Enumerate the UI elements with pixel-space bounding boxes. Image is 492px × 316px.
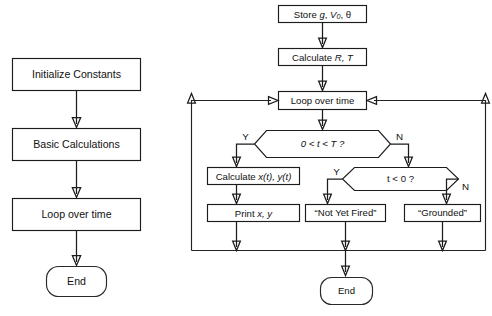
detailed-flowchart: Store g, V0, θ Calculate R, T Loop over … xyxy=(188,6,490,305)
connector-initialize-to-basic xyxy=(72,91,80,128)
connector-print-to-collector xyxy=(233,222,241,251)
node-calculate-xy-label: Calculate x(t), y(t) xyxy=(216,170,292,181)
branch-t-negative-no: N xyxy=(443,179,469,204)
node-end-label: End xyxy=(67,275,86,287)
node-calculate-r-t[interactable]: Calculate R, T xyxy=(279,49,367,66)
node-calculate-xy[interactable]: Calculate x(t), y(t) xyxy=(208,168,300,185)
node-end-label: End xyxy=(338,285,355,296)
node-store-constants-label: Store g, V0, θ xyxy=(294,8,351,21)
connector-loop-to-end xyxy=(72,231,80,266)
connector-loop-to-decision xyxy=(319,110,327,130)
node-calculate-r-t-label: Calculate R, T xyxy=(292,51,354,62)
connector-not-yet-fired-to-end xyxy=(342,222,350,276)
connector-basic-to-loop xyxy=(72,161,80,198)
node-loop-over-time-label: Loop over time xyxy=(291,95,354,106)
node-print-xy-label: Print x, y xyxy=(235,207,274,218)
node-initialize-constants[interactable]: Initialize Constants xyxy=(13,59,141,91)
overview-flowchart: Initialize Constants Basic Calculations … xyxy=(13,59,141,297)
connector-grounded-to-collector xyxy=(439,222,447,251)
branch-t-negative-yes: Y xyxy=(324,166,343,204)
connector-calculate-to-print xyxy=(233,185,241,204)
branch-label-in-range-yes: Y xyxy=(242,131,249,142)
node-basic-calculations-label: Basic Calculations xyxy=(33,138,120,150)
connector-calculate-to-loop xyxy=(319,66,327,91)
branch-in-range-no: N xyxy=(391,131,413,167)
node-print-xy[interactable]: Print x, y xyxy=(208,205,300,222)
branch-in-range-yes: Y xyxy=(233,131,255,167)
node-loop-over-time[interactable]: Loop over time xyxy=(279,92,367,110)
node-loop-over-time-label: Loop over time xyxy=(41,208,111,220)
node-decision-in-range[interactable]: 0 < t < T ? xyxy=(255,131,391,158)
branch-label-in-range-no: N xyxy=(396,131,403,142)
flowchart-canvas: Initialize Constants Basic Calculations … xyxy=(0,0,492,316)
branch-label-t-negative-yes: Y xyxy=(333,166,340,177)
node-initialize-constants-label: Initialize Constants xyxy=(32,68,121,80)
node-not-yet-fired[interactable]: “Not Yet Fired” xyxy=(306,205,386,222)
node-end[interactable]: End xyxy=(47,267,107,297)
node-not-yet-fired-label: “Not Yet Fired” xyxy=(315,207,377,218)
node-decision-t-negative-label: t < 0 ? xyxy=(387,173,414,184)
node-end[interactable]: End xyxy=(321,278,373,305)
node-store-constants[interactable]: Store g, V0, θ xyxy=(279,6,367,23)
branch-label-t-negative-no: N xyxy=(462,181,469,192)
node-basic-calculations[interactable]: Basic Calculations xyxy=(13,129,141,161)
node-grounded[interactable]: “Grounded” xyxy=(405,205,481,222)
node-decision-t-negative[interactable]: t < 0 ? xyxy=(343,168,459,191)
connector-store-to-calculate xyxy=(319,23,327,48)
node-decision-in-range-label: 0 < t < T ? xyxy=(301,138,345,149)
node-loop-over-time[interactable]: Loop over time xyxy=(13,199,141,231)
node-grounded-label: “Grounded” xyxy=(418,207,467,218)
